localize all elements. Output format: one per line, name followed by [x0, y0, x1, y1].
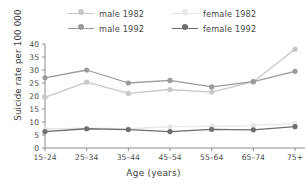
data-point	[167, 124, 172, 129]
data-point	[126, 127, 131, 132]
data-point	[167, 78, 172, 83]
x-tick-label: 15–24	[33, 153, 56, 162]
x-tick-label: 65–74	[242, 153, 265, 162]
data-point	[126, 91, 131, 96]
x-tick-label: 35–44	[117, 153, 140, 162]
data-point	[42, 129, 47, 134]
data-point	[84, 126, 89, 131]
data-point	[42, 95, 47, 100]
plot-svg: 0510152025303540 15–2425–3435–4445–5455–…	[0, 0, 307, 188]
y-tick-label: 0	[34, 144, 39, 153]
data-point	[167, 129, 172, 134]
plot-area: 0510152025303540 15–2425–3435–4445–5455–…	[0, 0, 307, 188]
y-tick-label: 35	[29, 53, 39, 62]
x-tick-label: 75+	[287, 153, 303, 162]
data-point	[251, 127, 256, 132]
data-series-layer	[42, 47, 297, 135]
series-male-1982	[42, 47, 297, 100]
x-tick-label: 45–54	[158, 153, 181, 162]
data-point	[209, 127, 214, 132]
data-point	[292, 124, 297, 129]
x-axis-ticks: 15–2425–3435–4445–5455–6465–7475+	[33, 148, 303, 162]
y-tick-label: 10	[29, 118, 39, 127]
data-point	[292, 47, 297, 52]
x-tick-label: 55–64	[200, 153, 223, 162]
data-point	[126, 80, 131, 85]
y-tick-label: 40	[29, 40, 39, 49]
x-tick-label: 25–34	[75, 153, 98, 162]
data-point	[209, 90, 214, 95]
data-point	[251, 79, 256, 84]
data-point	[292, 69, 297, 74]
data-point	[84, 80, 89, 85]
x-axis-title: Age (years)	[0, 168, 307, 178]
y-tick-label: 25	[29, 79, 39, 88]
data-point	[209, 84, 214, 89]
y-tick-label: 30	[29, 66, 39, 75]
y-tick-label: 20	[29, 92, 39, 101]
data-point	[84, 67, 89, 72]
y-tick-label: 15	[29, 105, 39, 114]
data-point	[167, 87, 172, 92]
series-male-1992	[42, 67, 297, 89]
data-point	[42, 75, 47, 80]
suicide-rate-line-chart: male 1982 female 1982 male 1992 female 1…	[0, 0, 307, 188]
y-tick-label: 5	[34, 131, 39, 140]
